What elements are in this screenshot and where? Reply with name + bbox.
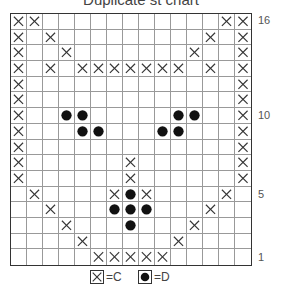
chart-cell xyxy=(43,140,59,156)
chart-cell xyxy=(139,14,155,30)
chart-cell xyxy=(27,92,43,108)
dot-symbol-icon xyxy=(123,218,138,233)
chart-cell xyxy=(91,124,107,140)
x-symbol-icon xyxy=(155,249,170,265)
chart-cell xyxy=(155,202,171,218)
chart-cell xyxy=(75,140,91,156)
legend-label-c: =C xyxy=(106,270,122,284)
chart-cell xyxy=(75,234,91,250)
chart-cell xyxy=(187,92,203,108)
chart-cell xyxy=(203,155,219,171)
x-symbol-icon xyxy=(90,270,104,284)
chart-cell xyxy=(155,124,171,140)
x-symbol-icon xyxy=(11,77,26,92)
chart-cell xyxy=(91,61,107,77)
dot-symbol-icon xyxy=(155,124,170,139)
chart-cell xyxy=(203,202,219,218)
chart-cell xyxy=(123,155,139,171)
chart-cell xyxy=(219,187,235,203)
chart-cell xyxy=(187,234,203,250)
chart-cell xyxy=(11,218,27,234)
dot-symbol-icon xyxy=(171,108,186,123)
chart-cell xyxy=(219,249,235,265)
chart-cell xyxy=(75,92,91,108)
chart-cell xyxy=(203,187,219,203)
chart-cell xyxy=(123,124,139,140)
chart-cell xyxy=(235,187,251,203)
x-symbol-icon xyxy=(11,124,26,139)
chart-cell xyxy=(139,218,155,234)
chart-cell xyxy=(43,124,59,140)
chart-cell xyxy=(139,30,155,46)
chart-cell xyxy=(107,249,123,265)
chart-cell xyxy=(187,187,203,203)
chart-cell xyxy=(219,202,235,218)
chart-cell xyxy=(139,92,155,108)
chart-cell xyxy=(171,124,187,140)
x-symbol-icon xyxy=(203,30,218,45)
x-symbol-icon xyxy=(43,202,58,217)
chart-cell xyxy=(171,45,187,61)
chart-cell xyxy=(203,140,219,156)
chart-cell xyxy=(107,45,123,61)
chart-cell xyxy=(107,61,123,77)
chart-cell xyxy=(59,14,75,30)
legend-item-c: =C xyxy=(90,270,122,284)
chart-cell xyxy=(27,30,43,46)
chart-cell xyxy=(187,77,203,93)
x-symbol-icon xyxy=(139,61,154,76)
chart-cell xyxy=(91,77,107,93)
chart-cell xyxy=(11,249,27,265)
chart-cell xyxy=(203,14,219,30)
chart-cell xyxy=(59,155,75,171)
chart-cell xyxy=(139,155,155,171)
x-symbol-icon xyxy=(91,249,106,265)
chart-cell xyxy=(43,202,59,218)
chart-cell xyxy=(107,30,123,46)
legend-item-d: =D xyxy=(138,270,170,284)
chart-cell xyxy=(107,187,123,203)
chart-cell xyxy=(107,77,123,93)
chart-cell xyxy=(171,140,187,156)
x-symbol-icon xyxy=(11,155,26,170)
chart-cell xyxy=(139,61,155,77)
chart-cell xyxy=(203,218,219,234)
chart-cell xyxy=(123,202,139,218)
chart-cell xyxy=(91,14,107,30)
chart-cell xyxy=(123,30,139,46)
x-symbol-icon xyxy=(123,249,138,265)
chart-cell xyxy=(59,92,75,108)
chart-cell xyxy=(235,155,251,171)
chart-cell xyxy=(155,92,171,108)
chart-cell xyxy=(27,155,43,171)
chart-cell xyxy=(43,45,59,61)
chart-cell xyxy=(91,218,107,234)
dot-symbol-icon xyxy=(59,108,74,123)
chart-cell xyxy=(139,108,155,124)
x-symbol-icon xyxy=(27,14,42,29)
chart-cell xyxy=(75,77,91,93)
chart-cell xyxy=(155,45,171,61)
chart-cell xyxy=(155,30,171,46)
chart-cell xyxy=(75,171,91,187)
chart-cell xyxy=(59,171,75,187)
chart-cell xyxy=(43,234,59,250)
dot-symbol-icon xyxy=(171,124,186,139)
chart-cell xyxy=(171,30,187,46)
x-symbol-icon xyxy=(11,61,26,76)
chart-cell xyxy=(91,155,107,171)
chart-cell xyxy=(235,92,251,108)
x-symbol-icon xyxy=(235,61,251,76)
chart-cell xyxy=(59,30,75,46)
chart-cell xyxy=(107,14,123,30)
x-symbol-icon xyxy=(11,45,26,60)
chart-cell xyxy=(155,234,171,250)
chart-cell xyxy=(203,92,219,108)
chart-cell xyxy=(43,61,59,77)
chart-cell xyxy=(235,140,251,156)
chart-cell xyxy=(123,14,139,30)
x-symbol-icon xyxy=(11,171,26,186)
chart-cell xyxy=(219,218,235,234)
chart-cell xyxy=(43,155,59,171)
chart-cell xyxy=(155,187,171,203)
